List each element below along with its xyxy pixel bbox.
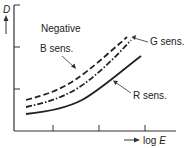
arrow-right-icon: [134, 138, 140, 143]
g-sens-leader: [134, 38, 148, 42]
b-sens-leader: [62, 56, 73, 66]
r-sens-arrowhead: [113, 81, 118, 86]
r-sens-label: R sens.: [133, 90, 167, 101]
g-sens-arrowhead: [132, 35, 137, 40]
g-sens-label: G sens.: [150, 36, 184, 47]
r-sens-leader: [115, 82, 131, 93]
arrow-up-icon: [4, 15, 9, 21]
negative-label: Negative: [41, 23, 81, 34]
b-sens-label: B sens.: [40, 43, 73, 54]
y-axis-label: D: [3, 4, 10, 15]
x-axis-label: log E: [143, 135, 166, 146]
characteristic-curves-chart: D log E Negative B sens. G sens. R sens.: [0, 0, 184, 148]
